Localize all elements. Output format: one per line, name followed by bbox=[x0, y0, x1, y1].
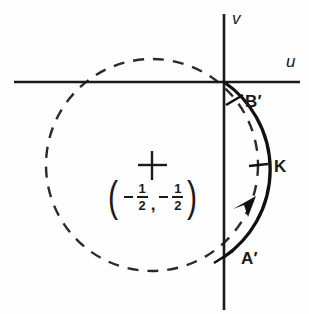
point-label-k: K bbox=[274, 158, 286, 175]
diagram-canvas bbox=[0, 0, 309, 314]
center-cross-marker bbox=[138, 151, 167, 180]
point-label-b-prime: B′ bbox=[245, 93, 262, 110]
first-denominator: 2 bbox=[138, 199, 147, 212]
first-fraction: 1 2 bbox=[137, 182, 148, 213]
second-denominator: 2 bbox=[173, 199, 182, 212]
point-label-a-prime: A′ bbox=[241, 250, 258, 267]
coordinate-separator: , bbox=[151, 195, 156, 216]
first-numerator: 1 bbox=[138, 182, 147, 195]
second-numerator: 1 bbox=[173, 182, 182, 195]
second-fraction: 1 2 bbox=[172, 182, 183, 213]
first-minus-sign bbox=[124, 196, 133, 198]
open-paren: ( bbox=[108, 180, 118, 214]
u-axis-label: u bbox=[286, 53, 295, 70]
tick-k bbox=[249, 164, 268, 166]
v-axis-label: v bbox=[232, 10, 241, 27]
circle-center-coordinate-label: ( 1 2 , 1 2 ) bbox=[100, 178, 205, 216]
complex-plane-figure: v u B′ K A′ ( 1 2 , 1 2 ) bbox=[0, 0, 309, 314]
arc-direction-arrowhead bbox=[233, 196, 256, 217]
close-paren: ) bbox=[187, 180, 197, 214]
tick-b-prime bbox=[226, 95, 243, 105]
second-minus-sign bbox=[159, 196, 168, 198]
